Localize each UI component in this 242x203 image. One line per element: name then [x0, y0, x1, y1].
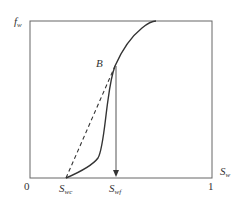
origin-tick-label: 0 — [24, 180, 30, 192]
swc-marker-label: Swc — [59, 182, 73, 196]
fractional-flow-curve — [66, 21, 156, 178]
plot-frame — [30, 21, 212, 178]
swf-marker-label: Swf — [109, 182, 122, 196]
tangent-line — [66, 66, 115, 178]
point-b-label: B — [96, 57, 103, 69]
x-max-tick-label: 1 — [208, 180, 214, 192]
arrow-head-icon — [113, 170, 119, 177]
y-axis-label: fw — [14, 15, 22, 29]
fractional-flow-diagram: fw B 0 1 Sw Swc Swf — [0, 0, 242, 203]
x-axis-label: Sw — [220, 165, 231, 179]
